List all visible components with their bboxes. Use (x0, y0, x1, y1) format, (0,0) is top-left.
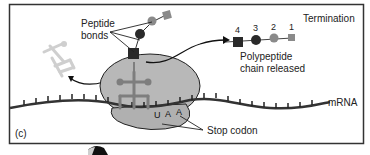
termination-diagram: 4 3 2 1 Peptide bonds Termination Polype… (0, 0, 370, 155)
codon-base-1: U (154, 110, 161, 120)
partial-next-panel-graphic (88, 146, 108, 155)
residue-number-3: 3 (253, 23, 258, 33)
polypeptide-label-line1: Polypeptide (240, 51, 293, 62)
mrna-label: mRNA (328, 97, 358, 108)
residue-4-square (233, 37, 243, 47)
codon-base-3: A (176, 107, 182, 117)
amino-acid-square-dark (128, 48, 139, 59)
residue-3-circle (251, 35, 261, 45)
polypeptide-label-line2: chain released (240, 63, 305, 74)
residue-number-2: 2 (271, 22, 276, 32)
peptide-bonds-label-line2: bonds (81, 30, 108, 41)
panel-label: (c) (15, 128, 27, 139)
amino-acid-circle-dark (135, 29, 145, 39)
amino-acid-circle-gray (148, 17, 157, 26)
residue-2-circle (270, 34, 279, 43)
residue-number-1: 1 (289, 22, 294, 32)
codon-base-2: A (165, 109, 171, 119)
peptide-bonds-label-line1: Peptide (81, 18, 115, 29)
residue-1-square (288, 34, 295, 41)
stage-title: Termination (303, 13, 355, 24)
stop-codon-label: Stop codon (207, 125, 258, 136)
residue-number-4: 4 (235, 25, 240, 35)
